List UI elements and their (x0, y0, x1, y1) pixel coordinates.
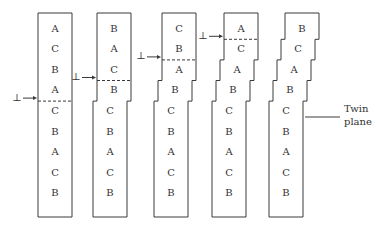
stacking-layer-label: C (167, 105, 175, 116)
stacking-layer-label: B (51, 187, 58, 198)
stacking-layer-label: B (167, 187, 174, 198)
stacking-layer-label: B (106, 126, 113, 137)
stacking-layer-label: B (225, 126, 232, 137)
stacking-layer-label: A (105, 146, 114, 157)
stacking-layer-label: A (166, 146, 175, 157)
stacking-layer-label: C (282, 167, 290, 178)
crystal-stage-4: ACABCBACB⊥ (198, 13, 258, 217)
stacking-layer-label: C (51, 105, 59, 116)
crystal-stage-1: ACBACBACB⊥ (12, 13, 72, 217)
stacking-layer-label: C (225, 105, 233, 116)
crystal-stages: ACBACBACB⊥BACBCBACB⊥CBABCBACB⊥ACABCBACB⊥… (12, 13, 319, 217)
stacking-layer-label: A (50, 23, 59, 34)
twin-plane-annotation: Twin plane (305, 103, 372, 127)
crystal-stage-3: CBABCBACB⊥ (136, 13, 196, 217)
stacking-layer-label: B (282, 187, 289, 198)
crystal-stage-2: BACBCBACB⊥ (71, 13, 131, 217)
stacking-layer-label: B (175, 43, 182, 54)
arrowhead-icon (157, 55, 161, 59)
crystal-outline (212, 13, 258, 217)
dislocation-symbol: ⊥ (136, 50, 145, 61)
stacking-layer-label: C (110, 64, 118, 75)
stacking-layer-label: B (298, 23, 305, 34)
twinning-diagram: ACBACBACB⊥BACBCBACB⊥CBABCBACB⊥ACABCBACB⊥… (0, 0, 380, 231)
stacking-layer-label: B (51, 126, 58, 137)
arrowhead-icon (92, 76, 96, 80)
stacking-layer-label: B (286, 84, 293, 95)
stacking-layer-label: A (281, 146, 290, 157)
stacking-layer-label: A (50, 84, 59, 95)
stacking-layer-label: B (282, 126, 289, 137)
stacking-layer-label: C (225, 167, 233, 178)
stacking-layer-label: B (110, 23, 117, 34)
dislocation-symbol: ⊥ (198, 30, 207, 41)
stacking-layer-label: B (229, 84, 236, 95)
stacking-layer-label: C (294, 43, 302, 54)
stacking-layer-label: A (174, 64, 183, 75)
stacking-layer-label: C (282, 105, 290, 116)
crystal-stage-5: BCABCBACB (269, 13, 319, 217)
stacking-layer-label: C (51, 43, 59, 54)
stacking-layer-label: C (237, 43, 245, 54)
arrowhead-icon (219, 34, 223, 38)
dislocation-symbol: ⊥ (12, 92, 21, 103)
stacking-layer-label: B (167, 126, 174, 137)
twin-plane-label-line1: Twin (344, 103, 369, 114)
stacking-layer-label: B (51, 64, 58, 75)
stacking-layer-label: A (109, 43, 118, 54)
stacking-layer-label: C (106, 105, 114, 116)
stacking-layer-label: A (289, 64, 298, 75)
stacking-layer-label: C (167, 167, 175, 178)
stacking-layer-label: A (50, 146, 59, 157)
stacking-layer-label: B (110, 84, 117, 95)
stacking-layer-label: B (171, 84, 178, 95)
stacking-layer-label: B (225, 187, 232, 198)
stacking-layer-label: B (106, 187, 113, 198)
twin-plane-label-line2: plane (344, 116, 372, 127)
stacking-layer-label: C (175, 23, 183, 34)
stacking-layer-label: C (51, 167, 59, 178)
dislocation-symbol: ⊥ (71, 71, 80, 82)
stacking-layer-label: A (232, 64, 241, 75)
stacking-layer-label: A (236, 23, 245, 34)
stacking-layer-label: A (224, 146, 233, 157)
arrowhead-icon (33, 96, 37, 100)
stacking-layer-label: C (106, 167, 114, 178)
